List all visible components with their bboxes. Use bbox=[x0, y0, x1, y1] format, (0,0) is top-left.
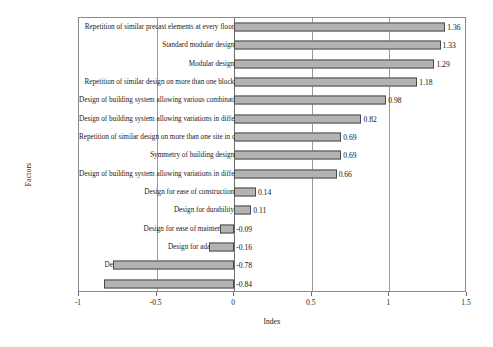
category-label: Design for durability bbox=[79, 206, 236, 215]
category-label: Symmetry of building design bbox=[79, 151, 236, 160]
value-label: -0.16 bbox=[234, 243, 252, 252]
bar bbox=[234, 23, 445, 32]
x-axis-tick bbox=[78, 292, 79, 296]
value-label: 0.66 bbox=[337, 169, 352, 178]
bar bbox=[234, 96, 386, 105]
bar bbox=[234, 59, 434, 68]
x-axis-tick-label: -1 bbox=[58, 298, 98, 307]
category-label: Repetition of similar design on more tha… bbox=[79, 133, 236, 142]
category-label: Design of building system allowing vario… bbox=[79, 96, 236, 105]
bar-row: Repetition of similar precast elements a… bbox=[79, 18, 465, 36]
bar bbox=[113, 261, 234, 270]
y-axis-title: Factors bbox=[24, 135, 33, 215]
x-axis-title: Index bbox=[78, 317, 466, 326]
x-axis-tick bbox=[388, 292, 389, 296]
bar-chart: Factors Repetition of similar precast el… bbox=[0, 0, 493, 347]
bar bbox=[104, 279, 234, 288]
bar bbox=[209, 243, 234, 252]
x-axis-tick-label: 1.5 bbox=[446, 298, 486, 307]
category-label: Design for ease of maintenance bbox=[79, 224, 236, 233]
category-label: Repetition of similar precast elements a… bbox=[79, 23, 236, 32]
plot-area: Repetition of similar precast elements a… bbox=[78, 17, 466, 292]
bar-row: Design for recycling-0.84 bbox=[79, 275, 465, 293]
value-label: 1.18 bbox=[417, 78, 432, 87]
bar-row: Design of building system allowing varia… bbox=[79, 165, 465, 183]
x-axis-tick bbox=[156, 292, 157, 296]
bar-row: Design for dismantling for reuse or recy… bbox=[79, 256, 465, 274]
bar bbox=[234, 133, 341, 142]
category-label: Design of building system allowing varia… bbox=[79, 169, 236, 178]
bar-row: Modular design1.29 bbox=[79, 55, 465, 73]
bar-row: Design for durability0.11 bbox=[79, 201, 465, 219]
category-label: Modular design bbox=[79, 59, 236, 68]
bar-row: Design for ease of construction0.14 bbox=[79, 183, 465, 201]
value-label: 1.36 bbox=[445, 23, 460, 32]
x-axis-tick-label: 1 bbox=[368, 298, 408, 307]
x-axis-tick-label: 0.5 bbox=[291, 298, 331, 307]
bar bbox=[220, 224, 234, 233]
value-label: 0.14 bbox=[256, 188, 271, 197]
bar-row: Repetition of similar design on more tha… bbox=[79, 73, 465, 91]
bar-row: Design for ease of maintenance-0.09 bbox=[79, 220, 465, 238]
value-label: -0.09 bbox=[234, 224, 252, 233]
value-label: 1.29 bbox=[434, 59, 449, 68]
bar bbox=[234, 151, 341, 160]
category-label: Repetition of similar design on more tha… bbox=[79, 78, 236, 87]
x-axis-tick bbox=[233, 292, 234, 296]
bar bbox=[234, 188, 256, 197]
bar-row: Repetition of similar design on more tha… bbox=[79, 128, 465, 146]
value-label: 0.98 bbox=[386, 96, 401, 105]
category-label: Design for ease of construction bbox=[79, 188, 236, 197]
bar bbox=[234, 78, 417, 87]
bar bbox=[234, 169, 336, 178]
value-label: -0.78 bbox=[234, 261, 252, 270]
x-axis-tick bbox=[466, 292, 467, 296]
value-label: 0.11 bbox=[251, 206, 266, 215]
bar bbox=[234, 206, 251, 215]
bar bbox=[234, 41, 440, 50]
x-axis-tick-label: -0.5 bbox=[136, 298, 176, 307]
bar bbox=[234, 114, 361, 123]
x-axis-tick bbox=[311, 292, 312, 296]
value-label: 0.82 bbox=[361, 114, 376, 123]
bar-row: Standard modular design1.33 bbox=[79, 36, 465, 54]
value-label: 1.33 bbox=[441, 41, 456, 50]
value-label: 0.69 bbox=[341, 133, 356, 142]
category-label: Standard modular design bbox=[79, 41, 236, 50]
value-label: -0.84 bbox=[234, 279, 252, 288]
bar-row: Design of building system allowing varia… bbox=[79, 110, 465, 128]
bar-row: Design of building system allowing vario… bbox=[79, 91, 465, 109]
value-label: 0.69 bbox=[341, 151, 356, 160]
category-label: Design of building system allowing varia… bbox=[79, 114, 236, 123]
bar-row: Symmetry of building design0.69 bbox=[79, 146, 465, 164]
x-axis-tick-label: 0 bbox=[213, 298, 253, 307]
bar-row: Design for adaptability-0.16 bbox=[79, 238, 465, 256]
